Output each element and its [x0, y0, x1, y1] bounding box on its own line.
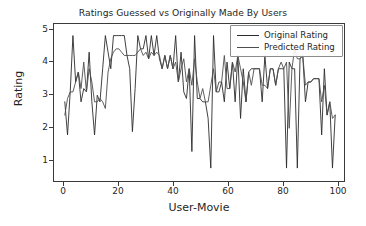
- legend-item-predicted-rating[interactable]: Predicted Rating: [235, 41, 338, 53]
- x-tick-label-60: 60: [208, 186, 248, 196]
- legend-label-original-rating: Original Rating: [264, 30, 328, 40]
- x-tick-label-40: 40: [153, 186, 193, 196]
- x-tick-label-0: 0: [43, 186, 83, 196]
- legend-item-original-rating[interactable]: Original Rating: [235, 29, 338, 41]
- y-tick-label-1: 1: [18, 155, 48, 165]
- y-tick-label-4: 4: [18, 56, 48, 66]
- y-tick-label-5: 5: [18, 24, 48, 34]
- y-tick-label-2: 2: [18, 122, 48, 132]
- x-axis-label: User-Movie: [53, 201, 345, 214]
- line-predicted-rating: [65, 49, 335, 129]
- legend-line-swatch-icon: [237, 47, 259, 48]
- legend-label-predicted-rating: Predicted Rating: [264, 42, 335, 52]
- x-tick-label-80: 80: [263, 186, 303, 196]
- x-tick-label-20: 20: [98, 186, 138, 196]
- legend-line-swatch-icon: [237, 35, 259, 36]
- x-tick-label-100: 100: [318, 186, 358, 196]
- chart-figure: Ratings Guessed vs Originally Made By Us…: [0, 0, 366, 226]
- y-tick-label-3: 3: [18, 89, 48, 99]
- chart-title: Ratings Guessed vs Originally Made By Us…: [0, 7, 366, 18]
- chart-legend[interactable]: Original Rating Predicted Rating: [230, 25, 343, 57]
